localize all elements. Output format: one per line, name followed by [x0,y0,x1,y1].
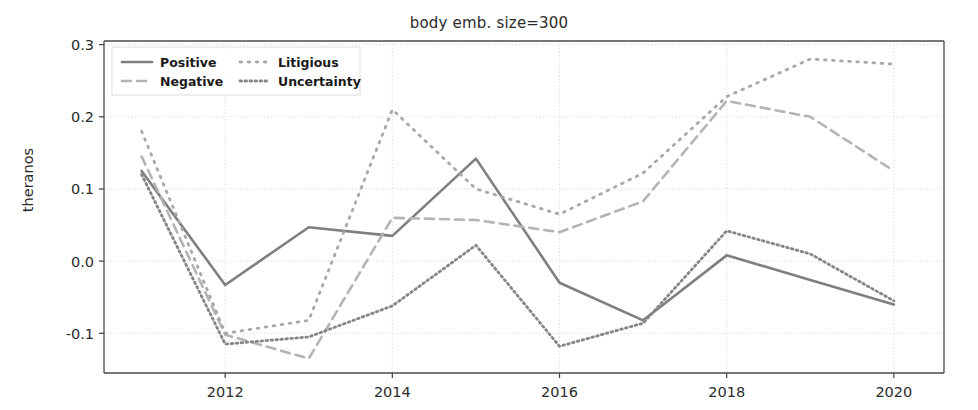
legend-label-litigious[interactable]: Litigious [278,55,339,70]
x-tick-label: 2020 [875,384,912,400]
chart-figure: body emb. size=300 theranos -0.10.00.10.… [0,0,978,410]
legend-label-positive[interactable]: Positive [160,55,216,70]
x-tick-label: 2014 [374,384,411,400]
series-line-litigious [142,59,894,333]
series-line-negative [142,101,894,359]
x-tick-label: 2012 [207,384,244,400]
x-tick-label: 2016 [541,384,578,400]
y-tick-label: 0.0 [71,254,94,270]
y-tick-label: 0.2 [71,109,94,125]
y-tick-label: -0.1 [66,326,94,342]
y-tick-label: 0.1 [71,181,94,197]
data-series-group [142,59,894,359]
plot-area: -0.10.00.10.20.320122014201620182020 Pos… [0,0,978,410]
legend[interactable]: PositiveNegativeLitigiousUncertainty [112,47,361,95]
legend-label-uncertainty[interactable]: Uncertainty [278,74,361,89]
legend-label-negative[interactable]: Negative [160,74,223,89]
y-tick-label: 0.3 [71,37,94,53]
x-tick-label: 2018 [708,384,745,400]
